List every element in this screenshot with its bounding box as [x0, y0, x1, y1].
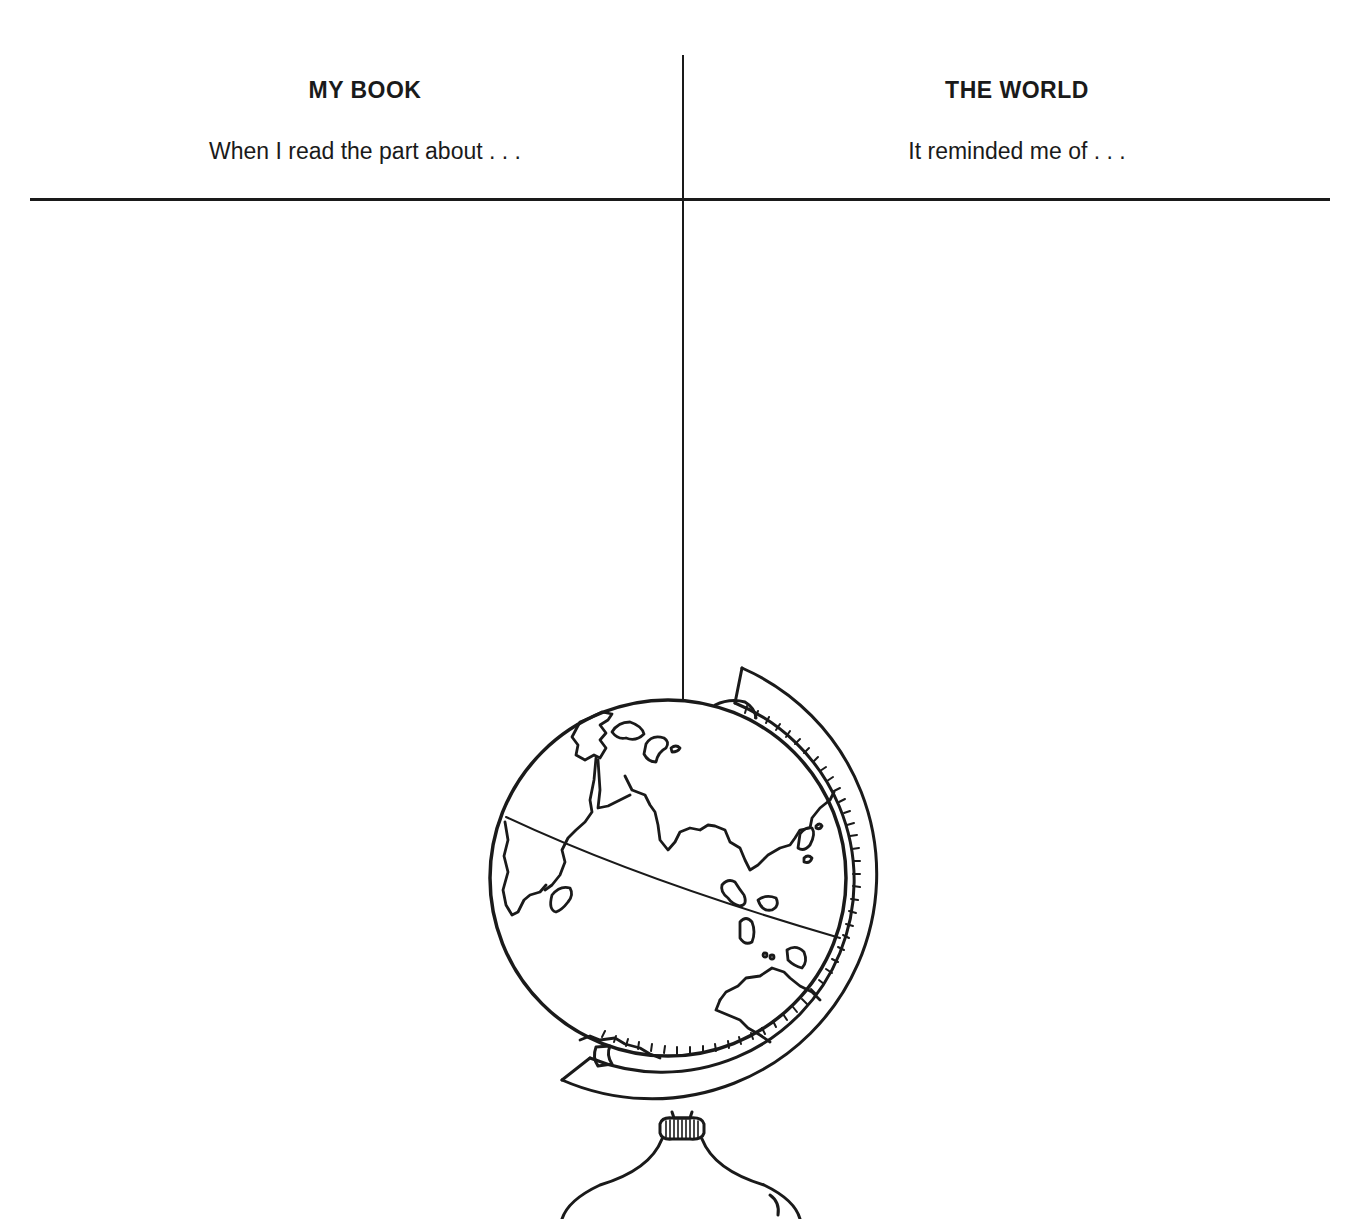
- column-my-book-header: MY BOOK When I read the part about . . .: [85, 72, 645, 169]
- horizontal-divider: [30, 198, 1330, 201]
- column-title: THE WORLD: [737, 72, 1297, 108]
- meridian-ticks: [602, 706, 860, 1054]
- my-book-writing-area[interactable]: [30, 202, 680, 682]
- column-prompt: When I read the part about . . .: [85, 133, 645, 169]
- stand-neck: [660, 1112, 704, 1139]
- equator-line: [506, 817, 840, 938]
- continents: [503, 712, 834, 1058]
- vertical-divider: [682, 55, 684, 700]
- stand-neck-grip: [666, 1120, 698, 1138]
- column-the-world-header: THE WORLD It reminded me of . . .: [737, 72, 1297, 169]
- globe-sphere: [490, 700, 846, 1056]
- pivot-caps: [594, 701, 756, 1066]
- meridian-ring: [562, 668, 877, 1099]
- column-title: MY BOOK: [85, 72, 645, 108]
- column-prompt: It reminded me of . . .: [737, 133, 1297, 169]
- stand-base: [562, 1139, 800, 1219]
- the-world-writing-area[interactable]: [686, 202, 1330, 682]
